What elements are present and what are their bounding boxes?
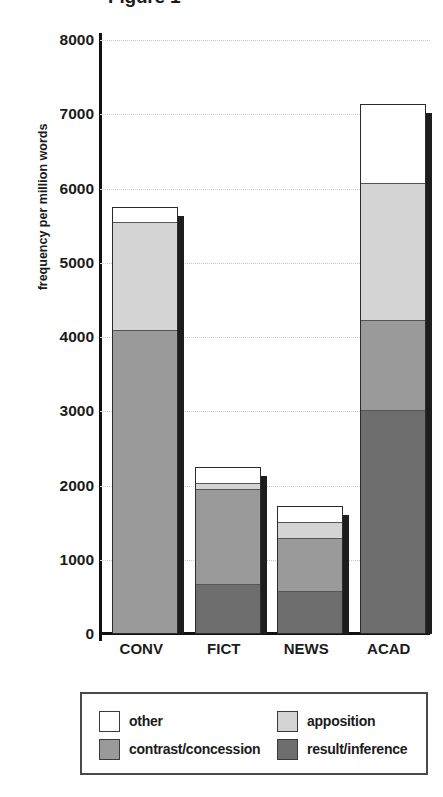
legend-entry[interactable]: contrast/concession — [99, 739, 277, 760]
legend-label: apposition — [307, 713, 375, 729]
bar-segment[interactable] — [113, 208, 177, 223]
bar-shadow — [342, 515, 349, 634]
legend-swatch-icon — [277, 739, 298, 760]
bar-stack — [360, 104, 426, 634]
bar-segment[interactable] — [196, 490, 260, 585]
bar-segment[interactable] — [278, 507, 342, 523]
bar-stack — [277, 506, 343, 634]
chart-title: Figure 1 — [108, 0, 368, 8]
legend-entry[interactable]: apposition — [277, 711, 415, 732]
legend-swatch-icon — [99, 711, 120, 732]
bar-shadow — [177, 216, 184, 634]
y-tick-label: 2000 — [40, 477, 94, 495]
legend-swatch-icon — [277, 711, 298, 732]
bar-segment[interactable] — [196, 585, 260, 633]
legend: otherappositioncontrast/concessionresult… — [80, 692, 428, 775]
y-tick-label: 8000 — [40, 31, 94, 49]
bar-segment[interactable] — [278, 539, 342, 592]
y-tick-label: 1000 — [40, 551, 94, 569]
plot-area — [100, 40, 430, 634]
y-tick-label: 5000 — [40, 254, 94, 272]
legend-label: result/inference — [307, 741, 407, 757]
legend-label: contrast/concession — [129, 741, 260, 757]
x-tick-label-conv: CONV — [100, 640, 183, 657]
bar-stack — [195, 467, 261, 634]
x-axis-tick-labels: CONVFICTNEWSACAD — [100, 640, 430, 670]
x-tick-label-acad: ACAD — [348, 640, 431, 657]
y-tick-label: 7000 — [40, 105, 94, 123]
stacked-bar-chart: Figure 1 frequency per million words 800… — [0, 0, 443, 797]
bar-segment[interactable] — [361, 105, 425, 184]
legend-swatch-icon — [99, 739, 120, 760]
bar-segment[interactable] — [278, 523, 342, 538]
bar-segment[interactable] — [361, 321, 425, 411]
bar-segment[interactable] — [113, 223, 177, 332]
y-tick-label: 0 — [40, 625, 94, 643]
bar-segment[interactable] — [113, 331, 177, 633]
bar-segment[interactable] — [361, 411, 425, 633]
x-tick-label-news: NEWS — [265, 640, 348, 657]
legend-entry[interactable]: other — [99, 711, 277, 732]
y-tick-label: 4000 — [40, 328, 94, 346]
bar-segment[interactable] — [278, 592, 342, 633]
y-tick-label: 3000 — [40, 402, 94, 420]
legend-label: other — [129, 713, 163, 729]
bars-layer — [100, 40, 430, 634]
legend-grid: otherappositioncontrast/concessionresult… — [99, 707, 415, 763]
bar-segment[interactable] — [196, 468, 260, 484]
legend-entry[interactable]: result/inference — [277, 739, 415, 760]
bar-shadow — [425, 113, 432, 634]
bar-segment[interactable] — [361, 184, 425, 321]
y-tick-label: 6000 — [40, 180, 94, 198]
bar-stack — [112, 207, 178, 634]
bar-shadow — [260, 476, 267, 634]
x-tick-label-fict: FICT — [183, 640, 266, 657]
y-axis-tick-labels: 800070006000500040003000200010000 — [36, 40, 94, 634]
